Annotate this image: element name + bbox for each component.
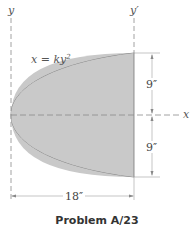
lower-height-dimension: 9″ — [146, 141, 157, 154]
upper-height-dimension: 9″ — [146, 78, 157, 91]
y-prime-axis-label: y′ — [129, 4, 139, 17]
figure-caption: Problem A/23 — [0, 214, 194, 227]
y-axis-label: y — [7, 4, 15, 17]
curve-equation: x = ky2 — [31, 53, 71, 66]
arrowhead — [151, 171, 154, 176]
x-axis-label: x — [183, 108, 190, 121]
arrowhead — [129, 195, 134, 198]
width-dimension: 18″ — [65, 190, 83, 203]
arrowhead — [11, 195, 16, 198]
arrowhead — [151, 54, 154, 59]
parabolic-area-diagram: y y′ x x = ky2 9″ 9″ 18″ — [0, 0, 194, 228]
arrowhead — [151, 116, 154, 121]
arrowhead — [151, 109, 154, 114]
